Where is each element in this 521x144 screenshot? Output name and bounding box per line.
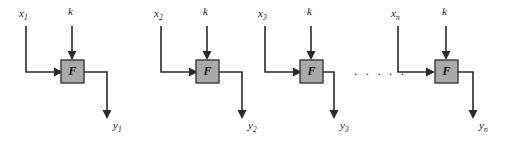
stage-2-input-subscript: 2: [159, 13, 163, 22]
stage-1-input-subscript: 1: [24, 13, 28, 22]
stage-3-param-label: k: [307, 6, 312, 17]
stage-1-input-label: x1: [19, 8, 28, 22]
stage-2-f-block-label: F: [202, 64, 211, 78]
stage-1-output-wire: [84, 72, 107, 110]
stage-1-param-label: k: [68, 6, 73, 17]
stage-n-output-subscript: n: [484, 125, 488, 134]
stage-n-output-wire: [458, 72, 473, 110]
stage-1-param-arrowhead: [68, 51, 77, 60]
stage-2-group: F: [161, 26, 247, 119]
stage-3-param-arrowhead: [307, 51, 316, 60]
stage-1-group: F: [26, 26, 112, 119]
stage-2-param-symbol: k: [203, 5, 208, 17]
stage-3-f-block-label: F: [306, 64, 315, 78]
stage-3-input-subscript: 3: [263, 13, 267, 22]
stage-n-output-arrowhead: [469, 110, 478, 119]
stage-n-input-label: xn: [391, 8, 400, 22]
stage-2-input-label: x2: [154, 8, 163, 22]
stage-3-output-subscript: 3: [345, 125, 349, 134]
stage-3-output-arrowhead: [330, 110, 339, 119]
stage-2-input-wire: [161, 26, 189, 72]
stage-2-param-label: k: [203, 6, 208, 17]
stage-n-f-block-label: F: [441, 64, 450, 78]
stage-2-output-subscript: 2: [253, 125, 257, 134]
stage-n-group: F: [398, 26, 478, 119]
stage-2-output-arrowhead: [238, 110, 247, 119]
stage-1-output-arrowhead: [103, 110, 112, 119]
stage-n-input-subscript: n: [396, 13, 400, 22]
diagram-canvas: F F F: [0, 0, 521, 144]
stage-n-input-arrowhead: [426, 68, 435, 77]
stage-3-input-label: x3: [258, 8, 267, 22]
stage-n-param-symbol: k: [442, 5, 447, 17]
stage-2-output-wire: [219, 72, 242, 110]
stage-1-param-symbol: k: [68, 5, 73, 17]
stage-1-input-wire: [26, 26, 54, 72]
stage-3-output-wire: [323, 72, 334, 110]
stage-3-param-symbol: k: [307, 5, 312, 17]
stages-ellipsis: . . . . .: [354, 64, 407, 77]
stage-3-output-label: y3: [340, 120, 349, 134]
stage-1-output-label: y1: [113, 120, 122, 134]
stage-3-group: F: [265, 26, 339, 119]
stage-2-param-arrowhead: [203, 51, 212, 60]
stage-n-param-arrowhead: [442, 51, 451, 60]
stage-2-output-label: y2: [248, 120, 257, 134]
stage-n-param-label: k: [442, 6, 447, 17]
stage-1-f-block-label: F: [67, 64, 76, 78]
stage-3-input-wire: [265, 26, 293, 72]
stage-n-output-label: yn: [479, 120, 488, 134]
stage-1-output-subscript: 1: [118, 125, 122, 134]
